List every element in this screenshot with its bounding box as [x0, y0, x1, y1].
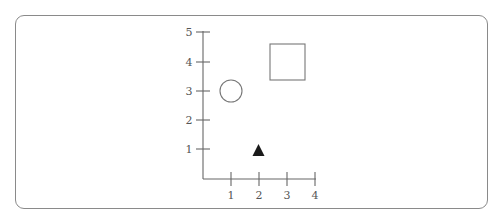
triangle-shape [253, 144, 265, 156]
x-label-2: 2 [256, 189, 263, 202]
y-label-2: 2 [186, 114, 193, 127]
y-label-5: 5 [186, 26, 193, 39]
y-label-4: 4 [186, 56, 193, 69]
square-shape [270, 44, 305, 80]
x-label-4: 4 [312, 189, 319, 202]
y-label-1: 1 [186, 143, 193, 156]
x-label-3: 3 [284, 189, 291, 202]
coordinate-plot: 5 4 3 2 1 1 2 3 4 [0, 0, 502, 221]
circle-shape [220, 80, 242, 102]
y-label-3: 3 [186, 85, 193, 98]
axes [196, 31, 316, 186]
x-label-1: 1 [228, 189, 235, 202]
